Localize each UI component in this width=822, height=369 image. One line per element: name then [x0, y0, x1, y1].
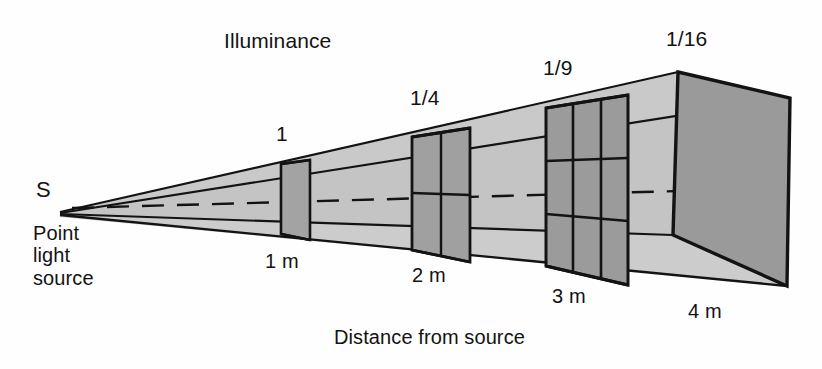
- illuminance-label-2m: 1/4: [410, 86, 440, 110]
- distance-label-1m: 1 m: [265, 250, 299, 272]
- panel-2m: [412, 128, 470, 262]
- distance-label-2m: 2 m: [412, 264, 446, 286]
- panel-3m-side-face: [546, 95, 628, 285]
- figure-title: Illuminance: [224, 29, 331, 53]
- distance-label-3m: 3 m: [552, 285, 586, 307]
- source-point-label: S: [36, 178, 51, 203]
- inverse-square-law-figure: Illuminance S Point light source 1 1/4 1…: [0, 0, 822, 369]
- source-caption: Point light source: [33, 222, 94, 289]
- distance-label-4m: 4 m: [688, 300, 722, 322]
- illuminance-label-3m: 1/9: [543, 56, 573, 80]
- panel-1m-side-face: [281, 160, 310, 240]
- panel-1m: [281, 160, 310, 240]
- axis-caption: Distance from source: [334, 326, 525, 348]
- panel-3m: [546, 95, 628, 285]
- illuminance-label-1m: 1: [276, 122, 288, 146]
- illuminance-label-4m: 1/16: [666, 27, 707, 51]
